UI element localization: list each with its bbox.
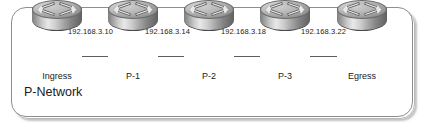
network-title: P-Network [24, 85, 82, 99]
router-icon-egress[interactable] [337, 0, 387, 34]
router-icon-p2[interactable] [184, 0, 234, 34]
link-ingress-p1 [82, 56, 108, 57]
router-icon-p3[interactable] [260, 0, 310, 34]
node-label-p3: P-3 [245, 71, 325, 81]
link-p2-p3 [234, 56, 260, 57]
node-label-p2: P-2 [169, 71, 249, 81]
node-label-egress: Egress [322, 71, 402, 81]
network-diagram: 192.168.3.10 192.168.3.14 192.168.3.18 1… [0, 0, 426, 128]
link-p3-egress [310, 56, 337, 57]
router-icon-p1[interactable] [108, 0, 158, 34]
link-p1-p2 [158, 56, 184, 57]
node-label-p1: P-1 [93, 71, 173, 81]
node-label-ingress: Ingress [17, 71, 97, 81]
router-icon-ingress[interactable] [32, 0, 82, 34]
